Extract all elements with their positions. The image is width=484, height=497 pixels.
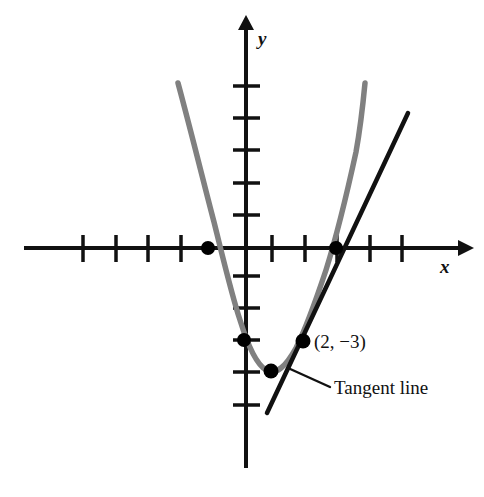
x-axis-arrowhead bbox=[458, 240, 474, 256]
point-coordinate-label: (2, −3) bbox=[314, 331, 366, 353]
point-tangency-2-neg3 bbox=[296, 334, 311, 349]
point-vertex bbox=[264, 364, 279, 379]
parabola-curve bbox=[178, 83, 365, 372]
point-y-intercept bbox=[237, 333, 251, 347]
axes-group bbox=[24, 15, 474, 468]
tangent-line-label: Tangent line bbox=[334, 377, 428, 399]
y-axis-label: y bbox=[258, 28, 266, 50]
y-axis-arrowhead bbox=[238, 15, 254, 30]
graph-figure bbox=[0, 0, 484, 497]
x-axis-label: x bbox=[440, 256, 450, 278]
point-x-intercept-right bbox=[329, 241, 343, 255]
tangent-leader-line bbox=[288, 368, 330, 387]
point-x-intercept-left bbox=[201, 241, 215, 255]
